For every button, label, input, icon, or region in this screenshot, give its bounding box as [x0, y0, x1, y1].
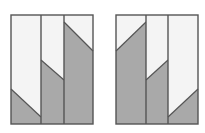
diagram-canvas: [0, 0, 205, 133]
right-panel: [116, 15, 198, 124]
left-panel: [11, 15, 93, 124]
